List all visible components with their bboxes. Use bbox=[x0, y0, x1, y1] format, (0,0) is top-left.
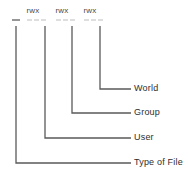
callout-label-type-of-file: Type of File bbox=[134, 157, 183, 167]
perm-group-label-world: rwx bbox=[79, 6, 101, 15]
perm-group-label-user: rwx bbox=[22, 6, 44, 15]
callout-label-group: Group bbox=[134, 107, 160, 117]
permission-diagram: rwx rwx rwx World Group User Type of Fil… bbox=[0, 0, 188, 181]
callout-label-world: World bbox=[134, 83, 158, 93]
perm-group-label-group: rwx bbox=[51, 6, 73, 15]
leader-line-group bbox=[72, 26, 131, 113]
leader-lines-group bbox=[0, 0, 188, 181]
leader-line-user bbox=[45, 26, 131, 138]
callout-label-user: User bbox=[134, 132, 154, 142]
leader-line-type-of-file bbox=[16, 26, 131, 163]
leader-line-world bbox=[100, 26, 131, 89]
